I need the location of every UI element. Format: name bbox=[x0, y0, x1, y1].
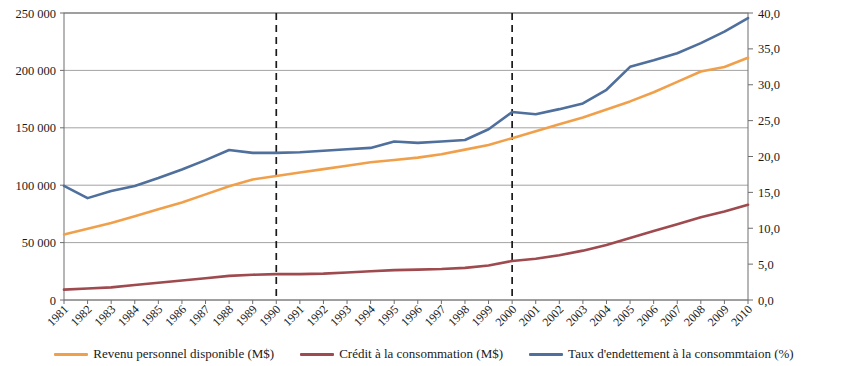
x-axis-tick-label: 1990 bbox=[257, 302, 284, 329]
legend-item: Taux d'endettement à la consommtaion (%) bbox=[529, 346, 794, 362]
x-axis-tick-label: 1983 bbox=[91, 302, 118, 329]
series-lines bbox=[64, 18, 748, 290]
x-axis-tick-label: 1988 bbox=[209, 302, 236, 329]
x-axis-tick-label: 1997 bbox=[422, 302, 449, 329]
right-axis-tick-label: 30,0 bbox=[758, 78, 780, 92]
left-axis-tick-label: 150 000 bbox=[15, 121, 56, 135]
legend-label: Taux d'endettement à la consommtaion (%) bbox=[568, 346, 794, 362]
series-line bbox=[64, 205, 748, 290]
left-axis-tick-label: 100 000 bbox=[15, 179, 56, 193]
right-axis-ticks: 0,05,010,015,020,025,030,035,040,0 bbox=[748, 7, 780, 308]
legend-swatch bbox=[300, 353, 334, 356]
x-axis-tick-label: 1998 bbox=[445, 302, 472, 329]
x-axis-tick-label: 2000 bbox=[492, 302, 519, 329]
x-axis-tick-label: 1991 bbox=[280, 302, 307, 329]
x-axis-tick-label: 1987 bbox=[186, 302, 213, 329]
legend-item: Crédit à la consommation (M$) bbox=[300, 346, 503, 362]
x-axis-tick-label: 1989 bbox=[233, 302, 260, 329]
left-axis-ticks: 050 000100 000150 000200 000250 000 bbox=[15, 7, 64, 308]
legend-swatch bbox=[529, 353, 563, 356]
right-axis-tick-label: 15,0 bbox=[758, 186, 780, 200]
right-axis-tick-label: 10,0 bbox=[758, 222, 780, 236]
x-axis-tick-label: 1984 bbox=[115, 302, 142, 329]
x-axis-tick-label: 1999 bbox=[469, 302, 496, 329]
x-axis-tick-label: 2007 bbox=[657, 302, 684, 329]
left-axis-tick-label: 0 bbox=[50, 294, 56, 308]
right-axis-tick-label: 20,0 bbox=[758, 150, 780, 164]
x-axis-tick-label: 1995 bbox=[374, 302, 401, 329]
x-axis-tick-label: 1994 bbox=[351, 302, 378, 329]
x-axis-tick-label: 1982 bbox=[68, 302, 95, 329]
series-line bbox=[64, 18, 748, 198]
x-axis-tick-label: 1993 bbox=[327, 302, 354, 329]
x-axis-tick-label: 1986 bbox=[162, 302, 189, 329]
x-axis-tick-label: 2004 bbox=[587, 302, 614, 329]
x-axis-tick-label: 1985 bbox=[139, 302, 166, 329]
gridlines bbox=[64, 13, 748, 300]
chart-legend: Revenu personnel disponible (M$)Crédit à… bbox=[0, 346, 848, 362]
legend-item: Revenu personnel disponible (M$) bbox=[54, 346, 274, 362]
left-axis-tick-label: 50 000 bbox=[22, 236, 56, 250]
x-axis-tick-label: 1996 bbox=[398, 302, 425, 329]
x-axis-tick-label: 2008 bbox=[681, 302, 708, 329]
left-axis-tick-label: 200 000 bbox=[15, 64, 56, 78]
series-line bbox=[64, 58, 748, 235]
legend-swatch bbox=[54, 353, 88, 356]
right-axis-tick-label: 40,0 bbox=[758, 7, 780, 21]
x-axis-tick-label: 2005 bbox=[610, 302, 637, 329]
right-axis-tick-label: 5,0 bbox=[758, 258, 774, 272]
line-chart: 050 000100 000150 000200 000250 000 0,05… bbox=[0, 0, 848, 340]
x-axis-tick-label: 2006 bbox=[634, 302, 661, 329]
x-axis-tick-label: 1981 bbox=[44, 302, 71, 329]
right-axis-tick-label: 0,0 bbox=[758, 294, 774, 308]
x-axis-tick-label: 1992 bbox=[304, 302, 331, 329]
legend-label: Revenu personnel disponible (M$) bbox=[93, 346, 274, 362]
x-axis-tick-label: 2003 bbox=[563, 302, 590, 329]
x-axis-tick-label: 2002 bbox=[540, 302, 567, 329]
x-axis-tick-label: 2001 bbox=[516, 302, 543, 329]
left-axis-tick-label: 250 000 bbox=[15, 7, 56, 21]
annotation-vlines bbox=[276, 13, 512, 300]
chart-container: 050 000100 000150 000200 000250 000 0,05… bbox=[0, 0, 848, 366]
plot-frame bbox=[64, 13, 748, 300]
x-axis-ticks: 1981198219831984198519861987198819891990… bbox=[44, 300, 755, 329]
legend-label: Crédit à la consommation (M$) bbox=[339, 346, 503, 362]
x-axis-tick-label: 2009 bbox=[705, 302, 732, 329]
right-axis-tick-label: 35,0 bbox=[758, 42, 780, 56]
right-axis-tick-label: 25,0 bbox=[758, 114, 780, 128]
x-axis-tick-label: 2010 bbox=[728, 302, 755, 329]
